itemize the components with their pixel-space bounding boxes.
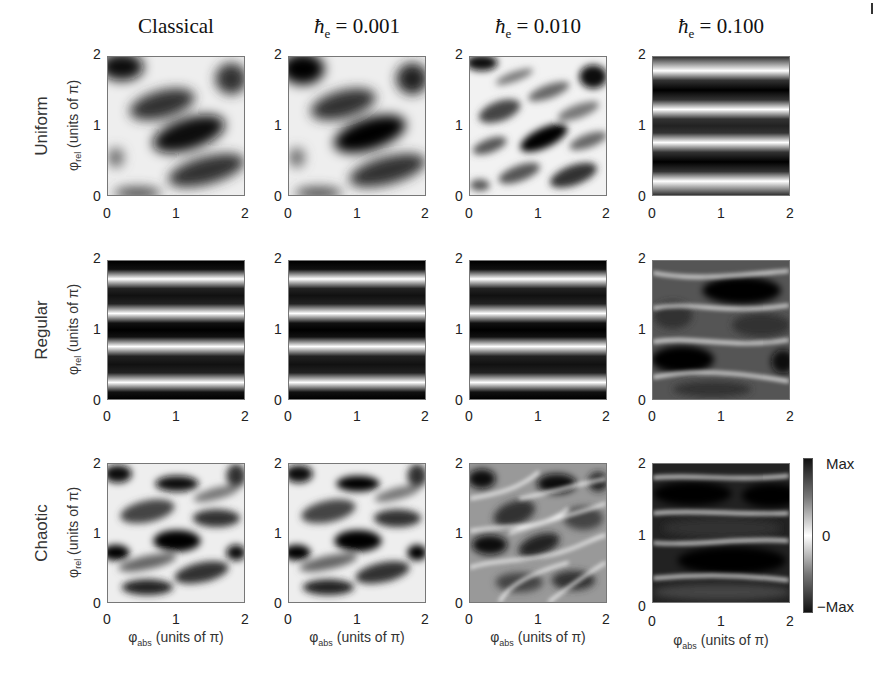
x-tick-1: 1 [353, 408, 361, 424]
y-tick-2: 2 [274, 455, 282, 471]
y-tick-0: 0 [638, 598, 646, 614]
subscript-abs: abs [318, 638, 333, 648]
heatmap-chaotic-classical [107, 463, 245, 603]
x-tick-2: 2 [241, 611, 249, 627]
y-tick-0: 0 [455, 595, 463, 611]
column-title-classical: Classical [96, 14, 256, 39]
phi-symbol: φ [65, 366, 81, 375]
x-tick-0: 0 [284, 611, 292, 627]
y-tick-0: 0 [274, 188, 282, 204]
x-tick-1: 1 [534, 408, 542, 424]
units-text: (units of π) [333, 629, 405, 645]
column-title-hbar-0010: ħe = 0.010 [458, 14, 618, 42]
y-tick-2: 2 [274, 46, 282, 62]
y-axis-label: φrel (units of π) [65, 55, 84, 195]
x-tick-1: 1 [534, 205, 542, 221]
title-value: = 0.100 [694, 14, 764, 38]
x-tick-1: 1 [172, 611, 180, 627]
x-axis-label: φabs (units of π) [96, 629, 256, 648]
row-label-regular: Regular [32, 260, 52, 400]
units-text: (units of π) [697, 632, 769, 648]
phi-symbol: φ [65, 569, 81, 578]
y-tick-2: 2 [274, 250, 282, 266]
x-tick-1: 1 [717, 408, 725, 424]
y-tick-1: 1 [93, 117, 101, 133]
subscript-abs: abs [137, 638, 152, 648]
subscript-abs: abs [499, 638, 514, 648]
heatmap-chaotic-hbar-0100 [652, 463, 790, 603]
heatmap-chaotic-hbar-0001 [288, 463, 426, 603]
y-tick-1: 1 [274, 321, 282, 337]
x-tick-2: 2 [602, 611, 610, 627]
x-tick-2: 2 [241, 408, 249, 424]
x-tick-2: 2 [241, 205, 249, 221]
x-tick-1: 1 [534, 611, 542, 627]
y-tick-1: 1 [455, 321, 463, 337]
y-tick-2: 2 [93, 455, 101, 471]
y-tick-0: 0 [638, 188, 646, 204]
y-tick-0: 0 [455, 188, 463, 204]
x-tick-0: 0 [103, 205, 111, 221]
heatmap-regular-hbar-0001 [288, 260, 426, 400]
y-tick-2: 2 [638, 455, 646, 471]
y-tick-0: 0 [455, 392, 463, 408]
x-tick-0: 0 [465, 408, 473, 424]
phi-symbol: φ [128, 629, 137, 645]
y-tick-1: 1 [455, 117, 463, 133]
y-axis-label: φrel (units of π) [65, 462, 84, 602]
row-label-uniform: Uniform [32, 56, 52, 196]
x-tick-2: 2 [421, 408, 429, 424]
phi-symbol: φ [65, 162, 81, 171]
x-tick-1: 1 [172, 205, 180, 221]
y-tick-1: 1 [638, 321, 646, 337]
y-tick-0: 0 [274, 595, 282, 611]
y-tick-2: 2 [455, 46, 463, 62]
colorbar [803, 458, 813, 613]
y-tick-2: 2 [93, 46, 101, 62]
x-tick-2: 2 [421, 611, 429, 627]
heatmap-uniform-hbar-0010 [469, 56, 607, 196]
y-tick-1: 1 [638, 117, 646, 133]
y-tick-2: 2 [455, 455, 463, 471]
x-tick-1: 1 [717, 613, 725, 629]
x-tick-2: 2 [602, 205, 610, 221]
phi-symbol: φ [490, 629, 499, 645]
x-tick-2: 2 [786, 408, 794, 424]
subscript-rel: rel [73, 356, 83, 366]
x-tick-0: 0 [465, 611, 473, 627]
column-title-hbar-0100: ħe = 0.100 [641, 14, 801, 42]
x-tick-1: 1 [353, 205, 361, 221]
y-tick-2: 2 [638, 250, 646, 266]
units-text: (units of π) [65, 80, 81, 152]
y-tick-2: 2 [455, 250, 463, 266]
y-tick-0: 0 [638, 392, 646, 408]
y-tick-0: 0 [274, 392, 282, 408]
colorbar-min-label: −Max [817, 598, 854, 615]
heatmap-uniform-classical [107, 56, 245, 196]
hbar-symbol: ħ [495, 14, 506, 38]
x-tick-1: 1 [717, 205, 725, 221]
units-text: (units of π) [152, 629, 224, 645]
y-tick-0: 0 [93, 392, 101, 408]
y-tick-1: 1 [455, 525, 463, 541]
x-tick-1: 1 [172, 408, 180, 424]
units-text: (units of π) [65, 284, 81, 356]
subscript-rel: rel [73, 559, 83, 569]
y-tick-2: 2 [93, 250, 101, 266]
title-value: = 0.010 [511, 14, 581, 38]
units-text: (units of π) [65, 487, 81, 559]
x-tick-0: 0 [648, 205, 656, 221]
heatmap-regular-classical [107, 260, 245, 400]
x-tick-0: 0 [284, 205, 292, 221]
heatmap-uniform-hbar-0100 [652, 56, 790, 196]
x-tick-1: 1 [353, 611, 361, 627]
y-tick-1: 1 [93, 321, 101, 337]
column-title-hbar-0001: ħe = 0.001 [277, 14, 437, 42]
x-axis-label: φabs (units of π) [458, 629, 618, 648]
subscript-abs: abs [682, 641, 697, 651]
y-tick-2: 2 [638, 46, 646, 62]
colorbar-zero-label: 0 [822, 527, 830, 544]
units-text: (units of π) [514, 629, 586, 645]
x-tick-0: 0 [103, 611, 111, 627]
x-tick-0: 0 [648, 408, 656, 424]
